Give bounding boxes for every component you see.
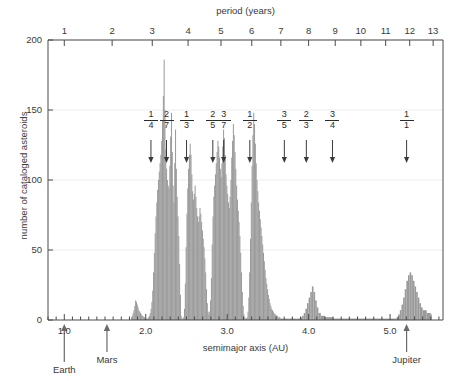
resonance-label-3-5: 35 — [276, 110, 292, 131]
resonance-numerator: 1 — [179, 110, 195, 119]
resonance-numerator: 3 — [276, 110, 292, 119]
asteroid-distribution-figure: period (years) number of cataloged aster… — [0, 0, 459, 381]
histogram-bar — [410, 272, 412, 320]
resonance-denominator: 1 — [399, 121, 415, 130]
gridlines — [48, 40, 443, 250]
histogram-bar — [405, 289, 407, 320]
resonance-denominator: 4 — [143, 121, 159, 130]
resonance-numerator: 2 — [298, 110, 314, 119]
top-xtick-label-13: 13 — [413, 26, 453, 36]
top-xtick-label-3: 3 — [132, 26, 172, 36]
resonance-arrow-head — [304, 157, 309, 163]
histogram-plot — [0, 0, 459, 381]
resonance-denominator: 7 — [159, 121, 175, 130]
planet-arrow-head-mars — [104, 324, 110, 331]
histogram-bar — [423, 310, 427, 320]
histogram-bar — [416, 292, 418, 320]
histogram-bar — [305, 309, 307, 320]
histogram-bar — [418, 298, 420, 320]
histogram-bars — [131, 60, 432, 320]
resonance-label-3-7: 37 — [216, 110, 232, 131]
histogram-bar — [321, 316, 325, 320]
planet-label-earth: Earth — [29, 364, 99, 375]
histogram-bar — [419, 303, 421, 320]
histogram-bar — [314, 292, 316, 320]
resonance-denominator: 7 — [216, 121, 232, 130]
resonance-arrow-head — [404, 157, 409, 163]
top-axis-title: period (years) — [186, 5, 306, 16]
xtick-label-1.0: 1.0 — [44, 326, 84, 336]
top-xtick-label-2: 2 — [92, 26, 132, 36]
top-xtick-label-1: 1 — [44, 26, 84, 36]
resonance-label-2-7: 27 — [159, 110, 175, 131]
resonance-label-1-4: 14 — [143, 110, 159, 131]
histogram-bar — [408, 275, 410, 320]
resonance-arrow-head — [247, 157, 252, 163]
histogram-bar — [401, 305, 403, 320]
histogram-bar — [411, 275, 413, 320]
resonance-arrow-head — [148, 157, 153, 163]
ytick-label-150: 150 — [10, 105, 42, 115]
resonance-label-3-4: 34 — [324, 110, 340, 131]
histogram-bar — [310, 292, 312, 320]
histogram-bar — [304, 313, 306, 320]
ytick-label-50: 50 — [10, 245, 42, 255]
resonance-numerator: 1 — [242, 110, 258, 119]
resonance-denominator: 3 — [298, 121, 314, 130]
histogram-bar — [413, 281, 415, 320]
histogram-bar — [400, 310, 402, 320]
resonance-denominator: 5 — [276, 121, 292, 130]
xtick-label-2.0: 2.0 — [126, 326, 166, 336]
ytick-label-0: 0 — [10, 315, 42, 325]
histogram-bar — [302, 316, 304, 320]
resonance-label-1-3: 13 — [179, 110, 195, 131]
resonance-numerator: 3 — [324, 110, 340, 119]
resonance-arrow-head — [210, 157, 215, 163]
resonance-label-1-1: 11 — [399, 110, 415, 131]
histogram-bar — [414, 286, 416, 320]
histogram-bar — [406, 281, 408, 320]
xtick-label-3.0: 3.0 — [207, 326, 247, 336]
resonance-arrow-head — [330, 157, 335, 163]
resonance-numerator: 1 — [399, 110, 415, 119]
planet-label-jupiter: Jupiter — [372, 354, 442, 365]
resonance-label-2-3: 23 — [298, 110, 314, 131]
histogram-bar — [403, 298, 405, 320]
histogram-bar — [312, 286, 314, 320]
resonance-arrow-head — [282, 157, 287, 163]
xtick-label-5.0: 5.0 — [370, 326, 410, 336]
resonance-arrow-head — [184, 157, 189, 163]
resonance-label-1-2: 12 — [242, 110, 258, 131]
histogram-bar — [427, 313, 431, 320]
planet-label-mars: Mars — [72, 354, 142, 365]
resonance-arrows — [148, 140, 409, 163]
resonance-denominator: 3 — [179, 121, 195, 130]
resonance-numerator: 3 — [216, 110, 232, 119]
histogram-bar — [318, 313, 320, 320]
ytick-label-100: 100 — [10, 175, 42, 185]
resonance-numerator: 2 — [159, 110, 175, 119]
xtick-label-4.0: 4.0 — [289, 326, 329, 336]
resonance-numerator: 1 — [143, 110, 159, 119]
resonance-denominator: 2 — [242, 121, 258, 130]
bottom-axis-title: semimajor axis (AU) — [176, 342, 316, 353]
resonance-denominator: 4 — [324, 121, 340, 130]
ytick-label-200: 200 — [10, 35, 42, 45]
